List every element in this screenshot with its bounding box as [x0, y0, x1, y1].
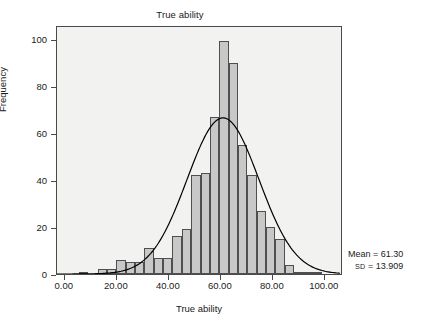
y-axis-label: Frequency [0, 67, 8, 112]
x-tick-label: 100.00 [299, 281, 349, 291]
y-tick-label: 0 [17, 270, 47, 280]
histogram-figure: True ability Frequency 020406080100 0.00… [0, 0, 423, 334]
y-tick-label: 60 [17, 129, 47, 139]
y-tick-label: 80 [17, 82, 47, 92]
x-axis-ticks: 0.0020.0040.0060.0080.00100.00 [56, 275, 342, 297]
plot-area [56, 26, 342, 275]
chart-title: True ability [0, 9, 360, 20]
sd-statistic: SD = 13.909 [348, 260, 403, 273]
x-tick-label: 80.00 [247, 281, 297, 291]
x-tick-label: 40.00 [143, 281, 193, 291]
x-tick-label: 60.00 [195, 281, 245, 291]
y-tick-label: 100 [17, 35, 47, 45]
mean-statistic: Mean = 61.30 [348, 248, 403, 260]
stats-annotation: Mean = 61.30 SD = 13.909 [348, 248, 403, 273]
y-tick-label: 20 [17, 223, 47, 233]
normal-distribution-curve [57, 27, 341, 274]
sd-value: = 13.909 [366, 261, 404, 271]
y-tick-label: 40 [17, 176, 47, 186]
x-tick-label: 20.00 [91, 281, 141, 291]
x-axis-label: True ability [56, 303, 342, 314]
sd-label: SD [355, 262, 365, 271]
y-axis-ticks: 020406080100 [18, 26, 56, 275]
x-tick-label: 0.00 [39, 281, 89, 291]
